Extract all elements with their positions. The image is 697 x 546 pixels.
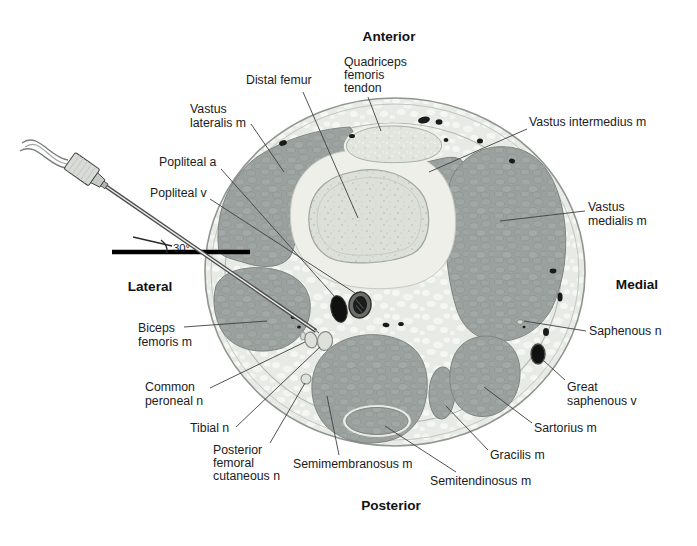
posterior-femoral-cutaneous-label-line3: cutaneous n [213, 469, 280, 483]
popliteal-a-label: Popliteal a [159, 155, 217, 169]
vastus-lateralis-label-line2: lateralis m [190, 116, 246, 130]
semimembranosus-label: Semimembranosus m [293, 457, 413, 471]
semitendinosus-muscle [346, 408, 408, 435]
sartorius-muscle [450, 336, 520, 416]
common-peroneal-label-line2: peroneal n [145, 394, 203, 408]
needle-tubing [20, 140, 68, 168]
vastus-lateralis-label-line1: Vastus [190, 102, 227, 116]
distal-femur-bone [309, 170, 429, 263]
biceps-femoris-label-line2: femoris m [138, 335, 192, 349]
anatomy-figure: 30° A [0, 0, 697, 546]
cross-section [205, 98, 585, 446]
popliteal-v-label: Popliteal v [150, 186, 208, 200]
biceps-femoris-muscle [214, 268, 310, 351]
vastus-medialis-label-line1: Vastus [588, 200, 625, 214]
posterior-femoral-cutaneous-label-line2: femoral [213, 456, 254, 470]
quadriceps-tendon-label-line1: Quadriceps [344, 55, 407, 69]
great-saphenous-v-label-line2: saphenous v [567, 394, 638, 408]
great-saphenous-v-label-line1: Great [567, 380, 598, 394]
saphenous-n-label: Saphenous n [589, 324, 662, 338]
quadriceps-tendon-label-line2: femoris [344, 68, 384, 82]
quadriceps-tendon-label-line3: tendon [344, 81, 382, 95]
medial-label: Medial [616, 277, 658, 292]
posterior-femoral-cutaneous-nerve [301, 374, 311, 384]
lateral-label: Lateral [128, 279, 173, 294]
sartorius-label: Sartorius m [534, 421, 597, 435]
great-saphenous-vein-vessel [531, 344, 545, 364]
saphenous-nerve [517, 320, 523, 325]
tibial-n-label: Tibial n [190, 421, 229, 435]
posterior-femoral-cutaneous-label-line1: Posterior [213, 443, 262, 457]
gracilis-label: Gracilis m [490, 448, 545, 462]
quadriceps-tendon-shape [346, 126, 441, 163]
vastus-medialis-label-line2: medialis m [588, 214, 647, 228]
needle-hub [64, 152, 112, 194]
thigh-cross-section-diagram: 30° A [0, 0, 697, 546]
vastus-intermedius-label: Vastus intermedius m [529, 115, 646, 129]
distal-femur-label: Distal femur [246, 73, 312, 87]
common-peroneal-label-line1: Common [145, 380, 195, 394]
biceps-femoris-label-line1: Biceps [138, 321, 175, 335]
anterior-label: Anterior [363, 29, 417, 44]
posterior-label: Posterior [361, 498, 421, 513]
semitendinosus-label: Semitendinosus m [430, 474, 531, 488]
vastus-medialis-muscle [445, 147, 566, 342]
angle-ray [133, 237, 172, 246]
